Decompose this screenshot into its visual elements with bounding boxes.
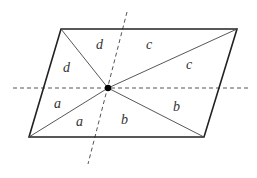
label-left-lower: a: [54, 96, 61, 111]
label-top-left: d: [96, 37, 104, 52]
parallelogram-diagram: d c d c a b a b: [0, 0, 257, 178]
parallelogram-outline: [29, 29, 237, 137]
interior-point: [105, 85, 111, 91]
label-right-lower: b: [173, 99, 180, 114]
label-left-upper: d: [63, 60, 71, 75]
segment-top-right: [108, 29, 237, 88]
label-bottom-left: a: [76, 114, 83, 129]
label-top-right: c: [146, 37, 153, 52]
label-bottom-right: b: [121, 112, 128, 127]
label-right-upper: c: [186, 57, 193, 72]
